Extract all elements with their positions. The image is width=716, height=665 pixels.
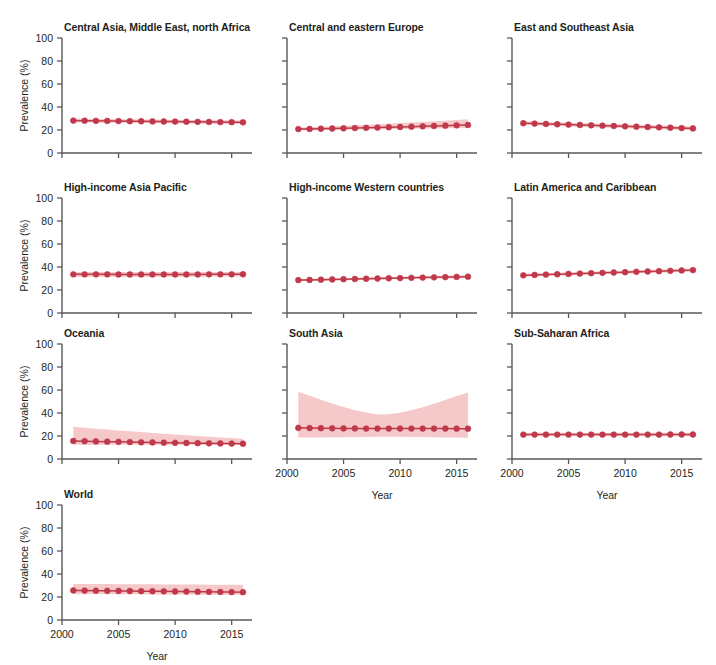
data-point [172, 440, 178, 446]
data-point [420, 275, 426, 281]
data-point [307, 126, 313, 132]
data-point [161, 119, 167, 125]
data-point [409, 426, 415, 432]
data-point [554, 121, 560, 127]
data-point [442, 274, 448, 280]
data-point [93, 271, 99, 277]
small-multiples-grid: Central Asia, Middle East, north Africa0… [0, 0, 716, 665]
data-point [341, 426, 347, 432]
x-tick-label: 2010 [163, 628, 187, 640]
data-point [566, 432, 572, 438]
y-tick-label: 20 [41, 284, 53, 296]
data-point [93, 439, 99, 445]
panel-plot-4 [241, 190, 491, 359]
x-tick-label: 2005 [107, 628, 131, 640]
data-point [195, 272, 201, 278]
y-tick-label: 60 [41, 78, 53, 90]
data-point [431, 426, 437, 432]
data-point [172, 119, 178, 125]
data-point [656, 268, 662, 274]
y-tick-label: 80 [41, 215, 53, 227]
data-point [588, 432, 594, 438]
data-point [341, 125, 347, 131]
panel-plot-3: 020406080100Prevalence (%) [16, 190, 266, 359]
y-tick-label: 80 [41, 361, 53, 373]
data-point [520, 272, 526, 278]
data-point [363, 276, 369, 282]
data-point [104, 118, 110, 124]
data-point [307, 425, 313, 431]
data-point [634, 269, 640, 275]
data-point [532, 272, 538, 278]
data-point [329, 425, 335, 431]
x-tick-label: 2015 [445, 467, 469, 479]
data-point [329, 277, 335, 283]
data-point [454, 426, 460, 432]
data-point [116, 272, 122, 278]
x-tick-label: 2015 [670, 467, 694, 479]
data-point [318, 277, 324, 283]
y-tick-label: 60 [41, 545, 53, 557]
data-point [138, 118, 144, 124]
data-point [93, 118, 99, 124]
data-point [600, 270, 606, 276]
data-point [70, 118, 76, 124]
data-point [431, 274, 437, 280]
data-point [229, 441, 235, 447]
data-point [520, 120, 526, 126]
data-point [397, 124, 403, 130]
x-tick-label: 2010 [388, 467, 412, 479]
x-tick-label: 2005 [557, 467, 581, 479]
data-point [104, 439, 110, 445]
data-point [543, 272, 549, 278]
data-point [172, 589, 178, 595]
data-point [386, 275, 392, 281]
data-point [454, 274, 460, 280]
data-point [184, 119, 190, 125]
data-point [295, 126, 301, 132]
data-point [690, 267, 696, 273]
data-point [206, 271, 212, 277]
x-axis-title: Year [596, 489, 618, 501]
y-axis-title: Prevalence (%) [18, 366, 30, 438]
panel-plot-2 [466, 30, 716, 199]
data-point [195, 119, 201, 125]
panel-plot-7: 2000200520102015Year [241, 336, 491, 505]
y-tick-label: 0 [47, 614, 53, 626]
x-tick-label: 2010 [613, 467, 637, 479]
data-point [217, 589, 223, 595]
data-point [352, 276, 358, 282]
y-tick-label: 60 [41, 238, 53, 250]
x-tick-label: 2015 [220, 628, 244, 640]
data-point [161, 588, 167, 594]
data-point [442, 123, 448, 129]
data-point [611, 123, 617, 129]
data-point [240, 589, 246, 595]
y-tick-label: 20 [41, 591, 53, 603]
data-point [431, 123, 437, 129]
data-point [104, 271, 110, 277]
data-point [679, 125, 685, 131]
data-point [622, 269, 628, 275]
data-point [409, 124, 415, 130]
data-point [600, 432, 606, 438]
data-point [229, 589, 235, 595]
data-point [217, 271, 223, 277]
data-point [611, 270, 617, 276]
data-point [150, 272, 156, 278]
data-point [116, 439, 122, 445]
data-point [161, 440, 167, 446]
y-tick-label: 0 [47, 147, 53, 159]
y-tick-label: 0 [47, 453, 53, 465]
y-tick-label: 20 [41, 124, 53, 136]
y-axis-title: Prevalence (%) [18, 60, 30, 132]
data-point [93, 588, 99, 594]
data-point [690, 432, 696, 438]
data-point [645, 432, 651, 438]
data-point [634, 124, 640, 130]
y-tick-label: 100 [35, 338, 53, 350]
data-point [116, 118, 122, 124]
data-point [127, 439, 133, 445]
x-axis-title: Year [371, 489, 393, 501]
data-point [420, 426, 426, 432]
